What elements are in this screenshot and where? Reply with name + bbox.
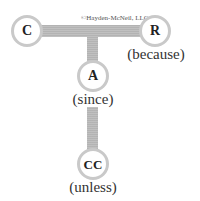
node-r-letter: R [150,24,160,38]
node-cc-caption: (unless) [60,180,126,195]
node-a-letter: A [88,69,98,83]
node-r-caption: (because) [125,47,187,62]
connector-a-cc [87,107,98,152]
node-r: R [139,15,171,47]
connector-bar-a [87,36,98,63]
node-a: A [77,60,109,92]
node-c: C [11,15,43,47]
node-c-letter: C [22,24,32,38]
node-cc-letter: CC [84,158,103,171]
copyright-text: ©Hayden-McNeil, LLC [81,15,149,22]
argument-diagram: ©Hayden-McNeil, LLC C R (because) A (sin… [0,0,200,201]
node-cc: CC [77,148,109,180]
node-a-caption: (since) [63,92,123,107]
